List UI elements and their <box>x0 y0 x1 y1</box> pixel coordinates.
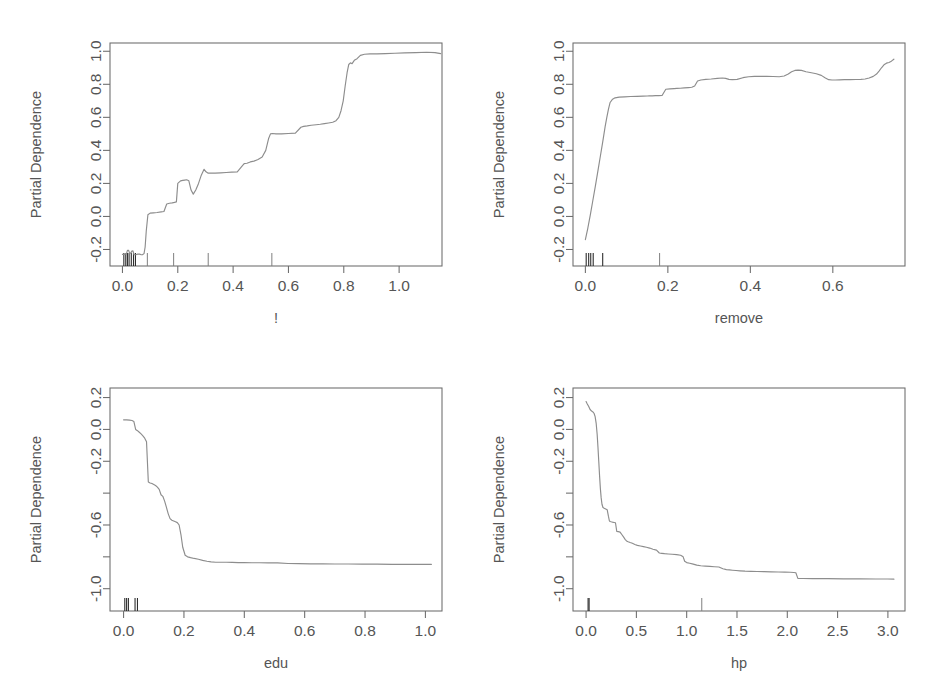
y-axis-tick-label: 0.0 <box>551 205 568 227</box>
y-axis-tick-label: -0.2 <box>551 236 568 263</box>
x-axis-tick-label: 0.0 <box>112 277 134 294</box>
x-axis-tick-label: 3.0 <box>877 622 899 639</box>
x-axis-tick-label: 0.0 <box>113 622 135 639</box>
y-axis-tick-label: 0.2 <box>551 387 568 409</box>
x-axis-tick-label: 1.5 <box>726 622 748 639</box>
plot-canvas: 0.20.0-0.2-0.6-1.00.00.51.01.52.02.53.0h… <box>463 345 926 690</box>
y-axis-tick-label: -0.2 <box>88 236 105 263</box>
y-axis-tick-label: 1.0 <box>551 40 568 62</box>
x-axis-title: hp <box>731 655 747 671</box>
x-axis-tick-label: 0.2 <box>173 622 195 639</box>
y-axis-title: Partial Dependence <box>28 436 44 563</box>
x-axis-tick-label: 0.4 <box>234 622 256 639</box>
partial-dependence-panel-hp: 0.20.0-0.2-0.6-1.00.00.51.01.52.02.53.0h… <box>463 345 926 690</box>
y-axis-title: Partial Dependence <box>491 91 507 218</box>
partial-dependence-curve <box>122 52 440 255</box>
plot-canvas: 0.20.0-0.2-0.6-1.00.00.20.40.60.81.0eduP… <box>0 345 463 690</box>
x-axis-tick-label: 0.0 <box>575 622 597 639</box>
y-axis-title: Partial Dependence <box>28 91 44 218</box>
plot-canvas: -0.20.00.20.40.60.81.00.00.20.40.60.81.0… <box>0 0 463 345</box>
plot-frame <box>110 43 442 266</box>
y-axis-tick-label: 0.4 <box>551 139 568 161</box>
y-axis-tick-label: 0.8 <box>551 74 568 96</box>
partial-dependence-curve <box>124 420 432 564</box>
x-axis-tick-label: 0.6 <box>278 277 300 294</box>
y-axis-tick-label: 0.6 <box>88 107 105 129</box>
plot-frame <box>573 43 905 266</box>
x-axis-tick-label: 1.0 <box>388 277 410 294</box>
partial-dependence-figure: -0.20.00.20.40.60.81.00.00.20.40.60.81.0… <box>0 0 926 690</box>
y-axis-tick-label: 0.0 <box>551 418 568 440</box>
x-axis-tick-label: 0.8 <box>354 622 376 639</box>
x-axis-tick-label: 0.6 <box>294 622 316 639</box>
partial-dependence-panel-bang: -0.20.00.20.40.60.81.00.00.20.40.60.81.0… <box>0 0 463 345</box>
x-axis-tick-label: 0.0 <box>575 277 597 294</box>
y-axis-tick-label: -0.2 <box>551 448 568 475</box>
y-axis-tick-label: -0.6 <box>88 512 105 539</box>
x-axis-tick-label: 0.2 <box>657 277 679 294</box>
y-axis-tick-label: 0.2 <box>88 173 105 195</box>
x-axis-tick-label: 1.0 <box>676 622 698 639</box>
y-axis-tick-label: 0.2 <box>88 387 105 409</box>
partial-dependence-panel-edu: 0.20.0-0.2-0.6-1.00.00.20.40.60.81.0eduP… <box>0 345 463 690</box>
y-axis-tick-label: -0.2 <box>88 448 105 475</box>
x-axis-tick-label: 0.5 <box>626 622 648 639</box>
y-axis-title: Partial Dependence <box>491 436 507 563</box>
y-axis-tick-label: 0.8 <box>88 74 105 96</box>
partial-dependence-curve <box>586 402 894 580</box>
x-axis-tick-label: 0.6 <box>822 277 844 294</box>
x-axis-tick-label: 0.4 <box>222 277 244 294</box>
y-axis-tick-label: -0.6 <box>551 512 568 539</box>
x-axis-tick-label: 1.0 <box>415 622 437 639</box>
x-axis-tick-label: 2.5 <box>827 622 849 639</box>
y-axis-tick-label: -1.0 <box>551 575 568 602</box>
y-axis-tick-label: 0.0 <box>88 418 105 440</box>
x-axis-tick-label: 0.2 <box>167 277 189 294</box>
plot-frame <box>573 388 905 611</box>
partial-dependence-curve <box>585 59 893 239</box>
plot-frame <box>110 388 442 611</box>
y-axis-tick-label: -1.0 <box>88 575 105 602</box>
x-axis-tick-label: 0.4 <box>740 277 762 294</box>
y-axis-tick-label: 0.0 <box>88 205 105 227</box>
y-axis-tick-label: 0.2 <box>551 173 568 195</box>
plot-canvas: -0.20.00.20.40.60.81.00.00.20.40.6remove… <box>463 0 926 345</box>
x-axis-tick-label: 0.8 <box>333 277 355 294</box>
y-axis-tick-label: 0.6 <box>551 107 568 129</box>
x-axis-title: remove <box>715 310 763 326</box>
x-axis-tick-label: 2.0 <box>777 622 799 639</box>
x-axis-title: edu <box>264 655 288 671</box>
x-axis-title: ! <box>274 310 278 326</box>
y-axis-tick-label: 1.0 <box>88 40 105 62</box>
partial-dependence-panel-remove: -0.20.00.20.40.60.81.00.00.20.40.6remove… <box>463 0 926 345</box>
y-axis-tick-label: 0.4 <box>88 139 105 161</box>
